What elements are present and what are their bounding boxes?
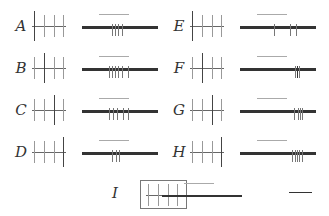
waveform-trace	[162, 180, 242, 210]
panel-label: B	[14, 59, 28, 77]
panel-d: D	[14, 132, 174, 172]
waveform-trace	[82, 137, 158, 167]
panel-label: A	[14, 17, 28, 35]
panel-g: G	[172, 90, 329, 130]
electrode-grid-icon	[190, 137, 224, 167]
waveform-trace	[240, 53, 316, 83]
panel-label: E	[172, 17, 186, 35]
panel-label: I	[108, 184, 122, 202]
panel-e: E	[172, 6, 329, 46]
panel-label: G	[172, 101, 186, 119]
scale-bar	[289, 192, 312, 193]
waveform-trace	[240, 11, 316, 41]
electrode-grid-icon	[32, 11, 66, 41]
panel-label: D	[14, 143, 28, 161]
panel-f: F	[172, 48, 329, 88]
waveform-trace	[82, 53, 158, 83]
electrode-grid-icon	[32, 53, 66, 83]
electrode-grid-icon	[32, 137, 66, 167]
electrode-grid-icon	[190, 95, 224, 125]
panel-label: H	[172, 143, 186, 161]
panel-label: C	[14, 101, 28, 119]
panel-label: F	[172, 59, 186, 77]
electrode-grid-icon	[190, 11, 224, 41]
panel-b: B	[14, 48, 174, 88]
waveform-trace	[240, 95, 316, 125]
panel-h: H	[172, 132, 329, 172]
electrode-grid-icon	[190, 53, 224, 83]
waveform-trace	[240, 137, 316, 167]
electrode-grid-icon	[32, 95, 66, 125]
panel-c: C	[14, 90, 174, 130]
panel-a: A	[14, 6, 174, 46]
waveform-trace	[82, 11, 158, 41]
waveform-trace	[82, 95, 158, 125]
